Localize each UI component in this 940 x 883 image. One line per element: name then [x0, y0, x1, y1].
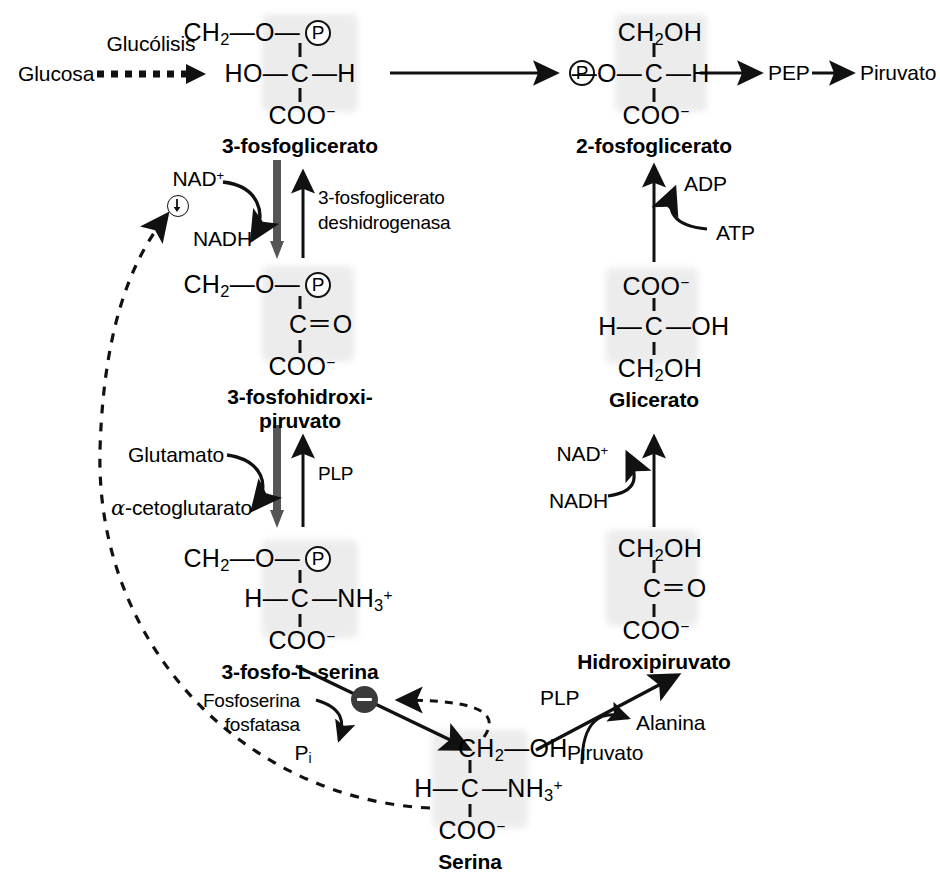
label-pi: Pi — [295, 742, 312, 766]
phpyr-mid: C＝O — [289, 312, 352, 337]
inhibition-minus-icon — [351, 686, 378, 713]
glicerato-mid-c: C — [645, 314, 663, 339]
label-glicerato: Glicerato — [609, 389, 699, 410]
serina-mid-right: —NH3+ — [482, 776, 563, 803]
serina-mid-c: C — [461, 776, 479, 801]
phpyr-bottom: COO− — [268, 354, 335, 379]
pg2-mid-right: —H — [666, 61, 710, 86]
label-nad-plus-right: NAD+ — [556, 443, 608, 464]
pg3-top: CH2—O— — [183, 20, 300, 47]
pg2-bottom: COO− — [622, 103, 689, 128]
pser-mid-c: C — [291, 586, 309, 611]
pathway-diagram: Glucosa Glucólisis CH2—O— P HO— C —H COO… — [0, 0, 940, 883]
pser-top: CH2—O— — [183, 546, 300, 573]
pg3-mid-right: —H — [312, 61, 356, 86]
label-nadh-right: NADH — [549, 490, 608, 511]
glicerato-mid-right: —OH — [666, 314, 729, 339]
glicerato-bottom: CH2OH — [618, 356, 702, 383]
label-piruvato-bottom: Piruvato — [567, 742, 643, 763]
label-nadh-left: NADH — [193, 228, 252, 249]
label-glucolisis: Glucólisis — [107, 33, 196, 54]
hpyr-bottom: COO− — [622, 618, 689, 643]
label-atp: ATP — [716, 222, 755, 243]
label-glutamato: Glutamato — [128, 444, 224, 465]
label-hidroxipiruvato: Hidroxipiruvato — [577, 651, 731, 672]
glicerato-mid-left: H— — [598, 314, 642, 339]
label-alanina: Alanina — [636, 712, 705, 733]
pg2-mid-c: C — [645, 61, 663, 86]
pser-mid-left: H— — [244, 586, 288, 611]
hpyr-top: CH2OH — [618, 536, 702, 563]
phosphate-circle-pser: P — [305, 546, 331, 572]
label-fosfohidroxipiruvato-line1: 3-fosfohidroxi- — [227, 386, 373, 407]
serina-bottom: COO− — [438, 818, 505, 843]
serina-top: CH2—OH — [458, 736, 568, 763]
label-piruvato-top: Piruvato — [860, 62, 936, 83]
label-3-fosfo-L-serina: 3-fosfo-L-serina — [221, 661, 378, 682]
label-adp: ADP — [684, 173, 727, 194]
pg3-bottom: COO− — [268, 103, 335, 128]
enzyme-dehydrogenase-line2: deshidrogenasa — [318, 213, 450, 232]
hpyr-mid: C＝O — [643, 576, 706, 601]
phpyr-top: CH2—O— — [183, 272, 300, 299]
pg2-top: CH2OH — [618, 20, 702, 47]
label-alpha-cetoglutarato: α-cetoglutarato — [111, 497, 252, 519]
label-2-fosfoglicerato: 2-fosfoglicerato — [576, 135, 732, 156]
phosphate-circle-pg3: P — [305, 20, 331, 46]
label-fosfohidroxipiruvato-line2: piruvato — [259, 410, 341, 431]
label-plp-serine-pyruvate: PLP — [540, 687, 579, 708]
enzyme-phosphatase-line2: fosfatasa — [225, 715, 300, 734]
pg3-mid-left: HO— — [225, 61, 288, 86]
circled-down-arrow-icon — [167, 195, 189, 217]
pg3-mid-c: C — [291, 61, 309, 86]
label-plp-transaminase: PLP — [318, 464, 353, 483]
pser-mid-right: —NH3+ — [312, 586, 393, 613]
pser-bottom: COO− — [268, 628, 335, 653]
serina-mid-left: H— — [414, 776, 458, 801]
enzyme-phosphatase-line1: Fosfoserina — [203, 691, 300, 710]
label-3-fosfoglicerato: 3-fosfoglicerato — [222, 135, 378, 156]
label-nad-plus-left: NAD+ — [172, 168, 224, 189]
enzyme-dehydrogenase-line1: 3-fosfoglicerato — [318, 188, 445, 207]
glicerato-top: COO− — [622, 274, 689, 299]
label-glucosa: Glucosa — [18, 63, 94, 84]
label-pep: PEP — [768, 62, 810, 83]
pg2-mid-left: —O— — [572, 61, 642, 86]
label-serina: Serina — [438, 851, 502, 872]
phosphate-circle-phpyr: P — [305, 272, 331, 298]
